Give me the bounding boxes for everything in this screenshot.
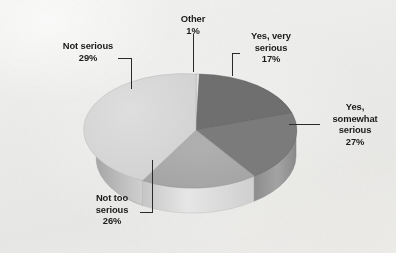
leader-line-yes-very-serious bbox=[232, 53, 240, 76]
callout-yes-very-serious-text-1: Yes, very bbox=[251, 30, 291, 41]
pie-top-faces bbox=[84, 74, 297, 189]
callout-yes-somewhat-serious-text-1: Yes, bbox=[346, 101, 364, 112]
callout-other-text: Other bbox=[181, 13, 206, 24]
callout-label-other: Other 1% bbox=[168, 13, 218, 36]
callout-label-yes-very-serious: Yes, very serious 17% bbox=[240, 30, 302, 65]
callout-not-too-serious-value: 26% bbox=[84, 215, 140, 227]
callout-label-not-too-serious: Not too serious 26% bbox=[84, 192, 140, 227]
callout-yes-somewhat-serious-text-2: somewhat bbox=[322, 113, 388, 125]
pie-chart-figure: Other 1% Yes, very serious 17% Yes, some… bbox=[0, 0, 396, 253]
callout-yes-very-serious-text-2: serious bbox=[240, 42, 302, 54]
callout-not-serious-text: Not serious bbox=[63, 40, 113, 51]
callout-label-not-serious: Not serious 29% bbox=[55, 40, 121, 63]
callout-yes-somewhat-serious-value: 27% bbox=[322, 136, 388, 148]
callout-yes-very-serious-value: 17% bbox=[240, 53, 302, 65]
callout-not-serious-value: 29% bbox=[55, 52, 121, 64]
callout-label-yes-somewhat-serious: Yes, somewhat serious 27% bbox=[322, 101, 388, 147]
callout-not-too-serious-text-1: Not too bbox=[96, 192, 128, 203]
callout-yes-somewhat-serious-text-3: serious bbox=[322, 124, 388, 136]
callout-other-value: 1% bbox=[168, 25, 218, 37]
callout-not-too-serious-text-2: serious bbox=[84, 204, 140, 216]
